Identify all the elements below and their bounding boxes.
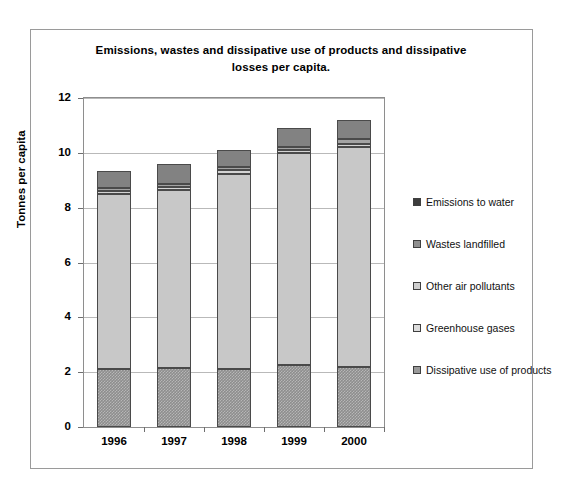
bar-segment-water[interactable] xyxy=(217,150,251,167)
chart-title: Emissions, wastes and dissipative use of… xyxy=(71,42,491,76)
bar-segment-otherair[interactable] xyxy=(337,144,371,147)
legend-swatch-icon xyxy=(413,198,421,206)
bar-segment-otherair[interactable] xyxy=(157,187,191,190)
x-tick-mark xyxy=(204,427,205,432)
chart-frame: Emissions, wastes and dissipative use of… xyxy=(30,29,533,469)
bar-segment-otherair[interactable] xyxy=(97,191,131,194)
y-tick-mark xyxy=(78,427,83,428)
bar-segment-wastes[interactable] xyxy=(97,188,131,190)
bar-segment-wastes[interactable] xyxy=(217,167,251,170)
bar-group xyxy=(204,98,264,427)
legend-swatch-icon xyxy=(413,366,421,374)
y-tick-mark xyxy=(78,372,83,373)
legend-swatch-icon xyxy=(413,240,421,248)
legend-item[interactable]: Dissipative use of products xyxy=(413,364,563,377)
y-tick-label: 0 xyxy=(41,420,71,432)
bar-segment-greenhouse[interactable] xyxy=(217,174,251,369)
bar-segment-water[interactable] xyxy=(157,164,191,185)
bar-group xyxy=(324,98,384,427)
y-tick-mark xyxy=(78,208,83,209)
bar-segment-dissipative[interactable] xyxy=(217,369,251,427)
bar-segment-otherair[interactable] xyxy=(277,150,311,153)
bar-group xyxy=(84,98,144,427)
y-tick-mark xyxy=(78,98,83,99)
x-tick-label: 1996 xyxy=(84,435,144,447)
bar-segment-greenhouse[interactable] xyxy=(337,147,371,367)
y-tick-label: 8 xyxy=(41,201,71,213)
bar-segment-dissipative[interactable] xyxy=(337,367,371,427)
y-tick-mark xyxy=(78,317,83,318)
x-tick-mark xyxy=(264,427,265,432)
y-tick-mark xyxy=(78,153,83,154)
legend-item-label: Dissipative use of products xyxy=(426,364,551,377)
x-tick-label: 1998 xyxy=(204,435,264,447)
bar-segment-dissipative[interactable] xyxy=(157,368,191,427)
x-tick-mark xyxy=(144,427,145,432)
legend-swatch-icon xyxy=(413,282,421,290)
bar-segment-water[interactable] xyxy=(337,120,371,139)
y-tick-label: 6 xyxy=(41,256,71,268)
bar-segment-water[interactable] xyxy=(277,128,311,147)
legend-item-label: Other air pollutants xyxy=(426,280,515,293)
legend-item[interactable]: Wastes landfilled xyxy=(413,238,563,251)
legend-item-label: Greenhouse gases xyxy=(426,322,515,335)
bar-segment-water[interactable] xyxy=(97,171,131,189)
x-tick-mark xyxy=(324,427,325,432)
y-tick-label: 4 xyxy=(41,310,71,322)
legend-item[interactable]: Greenhouse gases xyxy=(413,322,563,335)
bar-segment-wastes[interactable] xyxy=(277,147,311,150)
legend-swatch-icon xyxy=(413,324,421,332)
bar-series-container xyxy=(84,98,384,427)
bar-segment-wastes[interactable] xyxy=(157,184,191,186)
legend-item-label: Emissions to water xyxy=(426,196,514,209)
legend-item[interactable]: Other air pollutants xyxy=(413,280,563,293)
x-tick-label: 2000 xyxy=(324,435,384,447)
y-tick-label: 2 xyxy=(41,365,71,377)
bar-segment-otherair[interactable] xyxy=(217,170,251,174)
y-tick-label: 12 xyxy=(41,91,71,103)
bar-segment-greenhouse[interactable] xyxy=(277,153,311,365)
y-tick-label: 10 xyxy=(41,146,71,158)
legend-item[interactable]: Emissions to water xyxy=(413,196,563,209)
x-tick-mark xyxy=(384,427,385,432)
y-axis-label: Tonnes per capita xyxy=(15,130,27,228)
chart-title-line-1: Emissions, wastes and dissipative use of… xyxy=(96,44,467,56)
chart-title-line-2: losses per capita. xyxy=(232,61,330,73)
bar-segment-dissipative[interactable] xyxy=(277,365,311,427)
bar-group xyxy=(144,98,204,427)
x-tick-label: 1997 xyxy=(144,435,204,447)
legend-item-label: Wastes landfilled xyxy=(426,238,505,251)
x-tick-label: 1999 xyxy=(264,435,324,447)
bar-segment-dissipative[interactable] xyxy=(97,369,131,427)
y-tick-mark xyxy=(78,263,83,264)
bar-segment-greenhouse[interactable] xyxy=(97,194,131,369)
bar-segment-greenhouse[interactable] xyxy=(157,190,191,368)
bar-group xyxy=(264,98,324,427)
bar-segment-wastes[interactable] xyxy=(337,139,371,144)
